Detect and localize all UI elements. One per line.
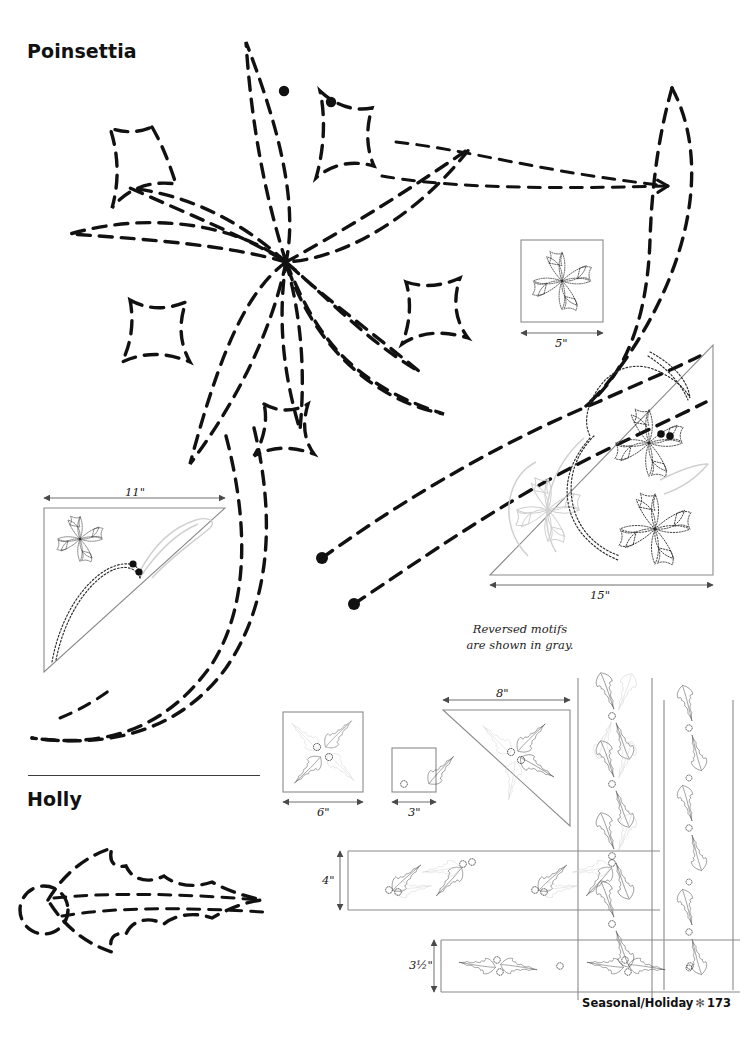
section-title-holly: Holly xyxy=(27,788,82,810)
border-vertical-inner xyxy=(578,670,652,1000)
border-vertical-outer xyxy=(664,683,733,990)
dimension-label-6in: 6" xyxy=(317,805,330,819)
stitch-start-dot xyxy=(279,86,289,96)
note-line-2: are shown in gray. xyxy=(466,638,573,652)
dimension-label-4in: 4" xyxy=(322,873,335,887)
block-holly-triangle-8 xyxy=(443,700,570,826)
holly-master-drawing xyxy=(20,848,264,952)
stitch-stop-dot xyxy=(326,97,336,107)
block-poinsettia-square-5 xyxy=(521,240,603,333)
pattern-artwork: .big{fill:none;stroke:#111;stroke-width:… xyxy=(0,0,756,1041)
dimension-label-8in: 8" xyxy=(496,686,509,700)
block-poinsettia-triangle-15 xyxy=(490,345,713,585)
stem-dot-1 xyxy=(316,552,328,564)
dimension-label-15in: 15" xyxy=(590,588,610,602)
reversed-motifs-note: Reversed motifs are shown in gray. xyxy=(388,622,652,653)
note-line-1: Reversed motifs xyxy=(473,622,567,636)
dimension-label-3in: 3" xyxy=(408,805,421,819)
footer-category: Seasonal/Holiday xyxy=(582,996,693,1010)
section-title-poinsettia: Poinsettia xyxy=(27,40,137,62)
page-footer: Seasonal/Holiday✻173 xyxy=(582,996,731,1010)
dimension-label-11in: 11" xyxy=(125,485,145,499)
block-poinsettia-triangle-11 xyxy=(44,498,225,672)
block-holly-square-6 xyxy=(283,712,363,802)
block-holly-square-3 xyxy=(392,748,459,802)
snowflake-icon: ✻ xyxy=(693,996,707,1010)
section-divider xyxy=(28,775,260,776)
stem-dot-2 xyxy=(348,598,360,610)
footer-page-number: 173 xyxy=(707,996,731,1010)
pattern-page: .big{fill:none;stroke:#111;stroke-width:… xyxy=(0,0,756,1041)
border-horizontal-4 xyxy=(340,851,660,910)
dimension-label-3half-in: 3½" xyxy=(409,958,433,972)
dimension-label-5in: 5" xyxy=(555,336,568,350)
holly-berry-outline xyxy=(20,886,68,934)
